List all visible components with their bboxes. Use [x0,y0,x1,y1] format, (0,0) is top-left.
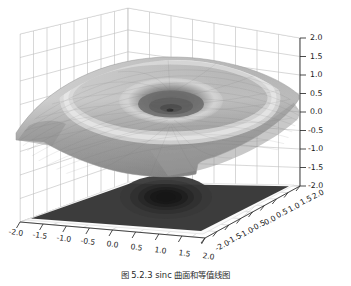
z-tick-label-2: 1.0 [310,71,322,79]
x-tick-label-3: -0.5 [80,237,96,247]
x-tick-label-7: 1.5 [178,249,191,258]
matplotlib-figure: 2.0 1.5 1.0 0.5 0.0 -0.5 -1.0 -1.5 -2.0 … [0,0,351,286]
axis-spines-and-ticks [0,0,351,266]
x-tick-label-2: -1.0 [56,234,72,244]
x-tick-label-8: 2.0 [202,252,215,261]
z-tick-label-6: -1.0 [308,145,323,153]
x-tick-label-5: 0.5 [130,243,143,252]
x-tick-label-1: -1.5 [32,231,48,241]
figure-caption: 图 5.2.3 sinc 曲面和等值线图 [0,270,351,281]
z-axis-ticks [300,38,306,186]
z-tick-label-4: 0.0 [310,108,322,116]
x-tick-label-0: -2.0 [8,228,24,238]
z-tick-label-5: -0.5 [308,127,323,135]
x-tick-label-6: 1.0 [154,246,167,255]
z-tick-label-0: 2.0 [310,34,322,42]
z-tick-label-7: -1.5 [308,164,323,172]
x-tick-label-4: 0.0 [106,240,119,249]
axes3d-surface-contour-plot: 2.0 1.5 1.0 0.5 0.0 -0.5 -1.0 -1.5 -2.0 … [0,0,351,266]
z-tick-label-3: 0.5 [310,90,322,98]
z-tick-label-1: 1.5 [310,53,322,61]
